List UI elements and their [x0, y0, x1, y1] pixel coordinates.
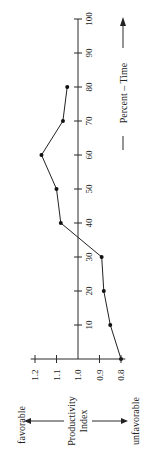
time-tick-label: 40: [84, 218, 94, 228]
time-tick-label: 20: [84, 286, 94, 296]
productivity-tick-label: 1.2: [30, 369, 40, 380]
favorable-label: favorable: [16, 406, 27, 444]
productivity-tick-label: 1.1: [52, 369, 62, 380]
time-tick-label: 70: [84, 116, 94, 126]
data-point: [108, 323, 112, 327]
productivity-tick-label: 0.8: [116, 369, 126, 381]
time-tick-label: 100: [84, 12, 94, 26]
time-tick-label: 30: [84, 252, 94, 262]
productivity-tick-label: 1.0: [73, 369, 83, 381]
time-tick-label: 10: [84, 320, 94, 330]
data-point: [39, 153, 43, 157]
data-point: [61, 119, 65, 123]
productivity-index-label-line2: Index: [78, 410, 89, 433]
data-point: [100, 255, 104, 259]
data-point: [65, 85, 69, 89]
time-axis-arrow-icon: [120, 17, 126, 26]
plot-area: [31, 19, 126, 361]
data-point: [102, 289, 106, 293]
time-axis-ticks: 102030405060708090100: [74, 12, 94, 330]
time-tick-label: 80: [84, 82, 94, 92]
unfavorable-arrow-icon: [121, 418, 128, 424]
productivity-label-group: favorable Productivity Index unfavorable: [16, 396, 141, 445]
time-tick-label: 50: [84, 184, 94, 194]
productivity-index-label-line1: Productivity: [66, 396, 77, 445]
data-point: [55, 187, 59, 191]
time-axis-label-group: Percent – Time: [118, 17, 129, 150]
productivity-tick-label: 0.9: [95, 369, 105, 381]
productivity-chart: 102030405060708090100 0.80.91.01.11.2 Pe…: [0, 0, 150, 461]
time-tick-label: 60: [84, 150, 94, 160]
time-tick-label: 90: [84, 48, 94, 58]
unfavorable-label: unfavorable: [130, 397, 141, 445]
data-point: [59, 221, 63, 225]
time-axis-label: Percent – Time: [118, 62, 129, 123]
